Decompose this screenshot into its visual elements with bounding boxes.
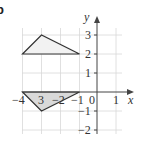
y-tick-3: 3 bbox=[85, 28, 91, 42]
y-tick-1: 1 bbox=[85, 66, 91, 80]
coordinate-plane: y x 3 2 1 −1 −2 −4 3 −2 −1 0 1 bbox=[0, 0, 141, 141]
y-tick-2: 2 bbox=[85, 47, 91, 61]
x-tick-neg4: −4 bbox=[12, 93, 25, 107]
x-tick-neg3: 3 bbox=[38, 93, 44, 107]
x-tick-neg1: −1 bbox=[71, 93, 84, 107]
y-axis-arrow-icon bbox=[94, 16, 100, 23]
axes bbox=[22, 20, 130, 134]
x-tick-1: 1 bbox=[113, 93, 119, 107]
y-axis-label: y bbox=[83, 10, 90, 24]
original-triangle bbox=[23, 35, 80, 54]
y-tick-neg2: −2 bbox=[78, 123, 91, 137]
x-tick-neg2: −2 bbox=[52, 93, 65, 107]
x-axis-label: x bbox=[127, 93, 134, 107]
origin-label: 0 bbox=[89, 93, 95, 107]
